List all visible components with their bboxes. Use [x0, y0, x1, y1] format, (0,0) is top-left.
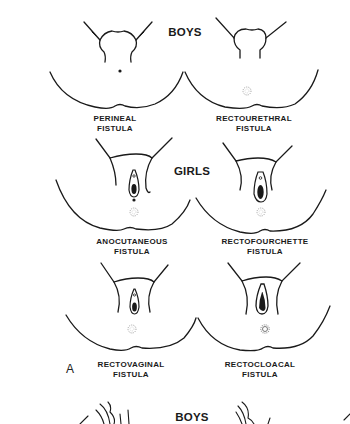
- rectofourchette-anal-dimple: [257, 208, 265, 216]
- rectourethral-anal-dimple: [243, 87, 251, 95]
- caption-line1: RECTOCLOACAL: [225, 360, 296, 370]
- caption-line2: FISTULA: [225, 370, 296, 380]
- caption-perineal-fistula: PERINEAL FISTULA: [94, 114, 137, 133]
- urethral-opening: [259, 177, 262, 180]
- vaginal-opening: [131, 184, 136, 194]
- vaginal-opening: [257, 185, 263, 199]
- anocutaneous-anal-dimple: [130, 208, 138, 216]
- anorectal-malformation-diagram: [0, 0, 350, 424]
- urethral-opening: [133, 175, 135, 177]
- perineal-fistula-opening: [118, 69, 121, 72]
- perineal-fistula-drawing: [50, 22, 183, 108]
- section-heading-boys: BOYS: [168, 27, 201, 39]
- caption-line2: FISTULA: [216, 124, 292, 134]
- caption-line1: RECTOVAGINAL: [98, 360, 165, 370]
- caption-rectocloacal-fistula: RECTOCLOACAL FISTULA: [225, 360, 296, 379]
- rectocloacal-anal-dimple: [261, 325, 269, 333]
- caption-rectovaginal-fistula: RECTOVAGINAL FISTULA: [98, 360, 165, 379]
- anocutaneous-fistula-opening: [132, 198, 135, 201]
- cloacal-opening: [259, 292, 266, 311]
- caption-anocutaneous-fistula: ANOCUTANEOUS FISTULA: [96, 237, 167, 256]
- next-panel-partial-drawing: [80, 402, 350, 424]
- urethral-opening: [133, 294, 135, 296]
- next-panel-heading-boys: BOYS: [175, 412, 208, 424]
- caption-rectourethral-fistula: RECTOURETHRAL FISTULA: [216, 114, 292, 133]
- rectourethral-fistula-drawing: [185, 18, 318, 108]
- caption-line1: PERINEAL: [94, 114, 137, 124]
- caption-line2: FISTULA: [221, 247, 308, 257]
- caption-rectofourchette-fistula: RECTOFOURCHETTE FISTULA: [221, 237, 308, 256]
- caption-line2: FISTULA: [98, 370, 165, 380]
- section-heading-girls: GIRLS: [174, 166, 210, 178]
- panel-letter: A: [66, 362, 74, 376]
- caption-line1: ANOCUTANEOUS: [96, 237, 167, 247]
- caption-line2: FISTULA: [96, 247, 167, 257]
- caption-line2: FISTULA: [94, 124, 137, 134]
- anocutaneous-fistula-drawing: [56, 138, 190, 230]
- caption-line1: RECTOURETHRAL: [216, 114, 292, 124]
- vaginal-opening: [132, 303, 137, 312]
- rectovaginal-fistula-drawing: [66, 263, 196, 350]
- caption-line1: RECTOFOURCHETTE: [221, 237, 308, 247]
- rectovaginal-anal-dimple: [128, 325, 136, 333]
